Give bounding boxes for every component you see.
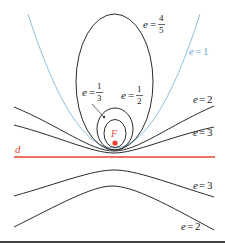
hyperbola-e3-lower [14,170,214,197]
label-e-1-2: e = 1 2 [121,84,143,106]
focus-label: F [110,128,118,139]
label-e-1-3: e = 1 3 [82,81,103,103]
label-e-1: e = 1 [189,45,209,57]
svg-text:e: e [143,18,148,30]
svg-text:e: e [189,45,194,57]
arrowhead-e-1-3 [103,116,105,118]
label-e-3-upper: e = 3 [193,126,213,138]
svg-text:e: e [181,220,186,232]
svg-text:1: 1 [137,84,142,94]
label-e-2-lower: e = 2 [181,220,201,232]
svg-text:e: e [82,86,87,98]
arrow-e-1-3 [92,104,103,116]
svg-text:4: 4 [159,13,164,23]
conics-diagram: F d e = 4 5 e = 1 e = 1 3 e = 1 2 e = 2 [0,0,225,245]
svg-text:=: = [199,126,205,138]
directrix-label: d [15,143,21,155]
label-e-4-5: e = 4 5 [143,13,165,35]
svg-text:=: = [199,93,205,105]
svg-text:5: 5 [159,25,164,35]
bottom-rule [0,241,225,243]
label-e-3-lower: e = 3 [193,179,213,191]
svg-text:3: 3 [207,126,213,138]
svg-text:e: e [121,89,126,101]
svg-text:e: e [193,93,198,105]
svg-text:=: = [150,18,156,30]
svg-text:1: 1 [97,81,102,91]
svg-text:2: 2 [195,220,201,232]
svg-text:=: = [89,86,95,98]
svg-text:1: 1 [203,45,209,57]
svg-text:e: e [193,179,198,191]
svg-text:=: = [195,45,201,57]
svg-text:2: 2 [207,93,213,105]
svg-text:2: 2 [137,96,142,106]
svg-text:3: 3 [97,93,102,103]
svg-text:3: 3 [207,179,213,191]
svg-text:=: = [187,220,193,232]
svg-text:=: = [128,89,134,101]
svg-text:=: = [199,179,205,191]
focus-point [112,140,117,145]
label-e-2-upper: e = 2 [193,93,213,105]
svg-text:e: e [193,126,198,138]
